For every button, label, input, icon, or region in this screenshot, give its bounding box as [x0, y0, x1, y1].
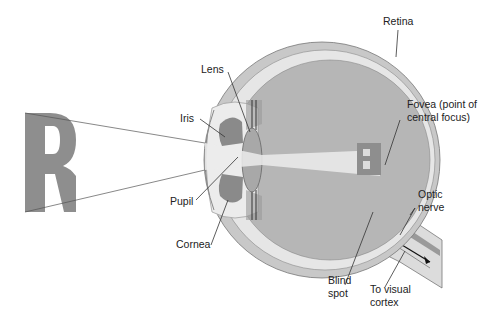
- label-iris: Iris: [180, 112, 194, 124]
- eye-diagram: Retina Lens Iris Pupil Cornea Fovea (poi…: [0, 0, 501, 325]
- label-retina: Retina: [383, 15, 414, 27]
- label-lens: Lens: [201, 63, 224, 75]
- iris-top: [219, 117, 243, 146]
- label-blind-2: spot: [328, 287, 348, 299]
- label-fovea-1: Fovea (point of: [407, 98, 477, 110]
- sight-line-top: [25, 113, 205, 143]
- label-cortex-1: To visual: [370, 283, 411, 295]
- object-letter-r: [25, 113, 76, 212]
- label-cortex-2: cortex: [370, 296, 399, 308]
- iris-bottom: [219, 174, 243, 203]
- image-letter-r: [357, 143, 381, 175]
- label-optic-1: Optic: [418, 188, 443, 200]
- label-cornea: Cornea: [176, 238, 211, 250]
- label-optic-2: nerve: [418, 201, 444, 213]
- label-fovea-2: central focus): [407, 111, 470, 123]
- label-pupil: Pupil: [170, 195, 193, 207]
- label-blind-1: Blind: [328, 274, 352, 286]
